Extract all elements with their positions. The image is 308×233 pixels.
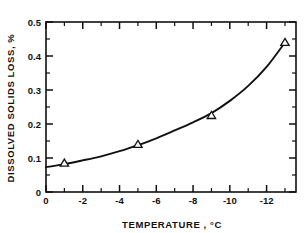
x-tick-label: 0	[43, 195, 48, 206]
x-tick-label: -10	[223, 195, 237, 206]
chart-canvas: 0-2-4-6-8-10-12 00.10.20.30.40.5 TEMPERA…	[0, 0, 308, 233]
x-tick-label: -2	[79, 195, 87, 206]
x-tick-label: -8	[189, 195, 197, 206]
y-tick-label: 0.5	[28, 17, 42, 28]
x-tick-label: -12	[260, 195, 274, 206]
y-axis-title: DISSOLVED SOLIDS LOSS, %	[5, 34, 16, 183]
y-tick-label: 0	[36, 187, 41, 198]
y-tick-label: 0.3	[28, 85, 41, 96]
x-tick-label: -6	[152, 195, 160, 206]
y-tick-label: 0.2	[28, 119, 41, 130]
chart-figure: 0-2-4-6-8-10-12 00.10.20.30.40.5 TEMPERA…	[0, 0, 308, 233]
x-tick-label: -4	[115, 195, 124, 206]
y-tick-label: 0.1	[28, 153, 42, 164]
x-axis-title: TEMPERATURE , °C	[122, 219, 222, 230]
y-tick-label: 0.4	[28, 51, 42, 62]
